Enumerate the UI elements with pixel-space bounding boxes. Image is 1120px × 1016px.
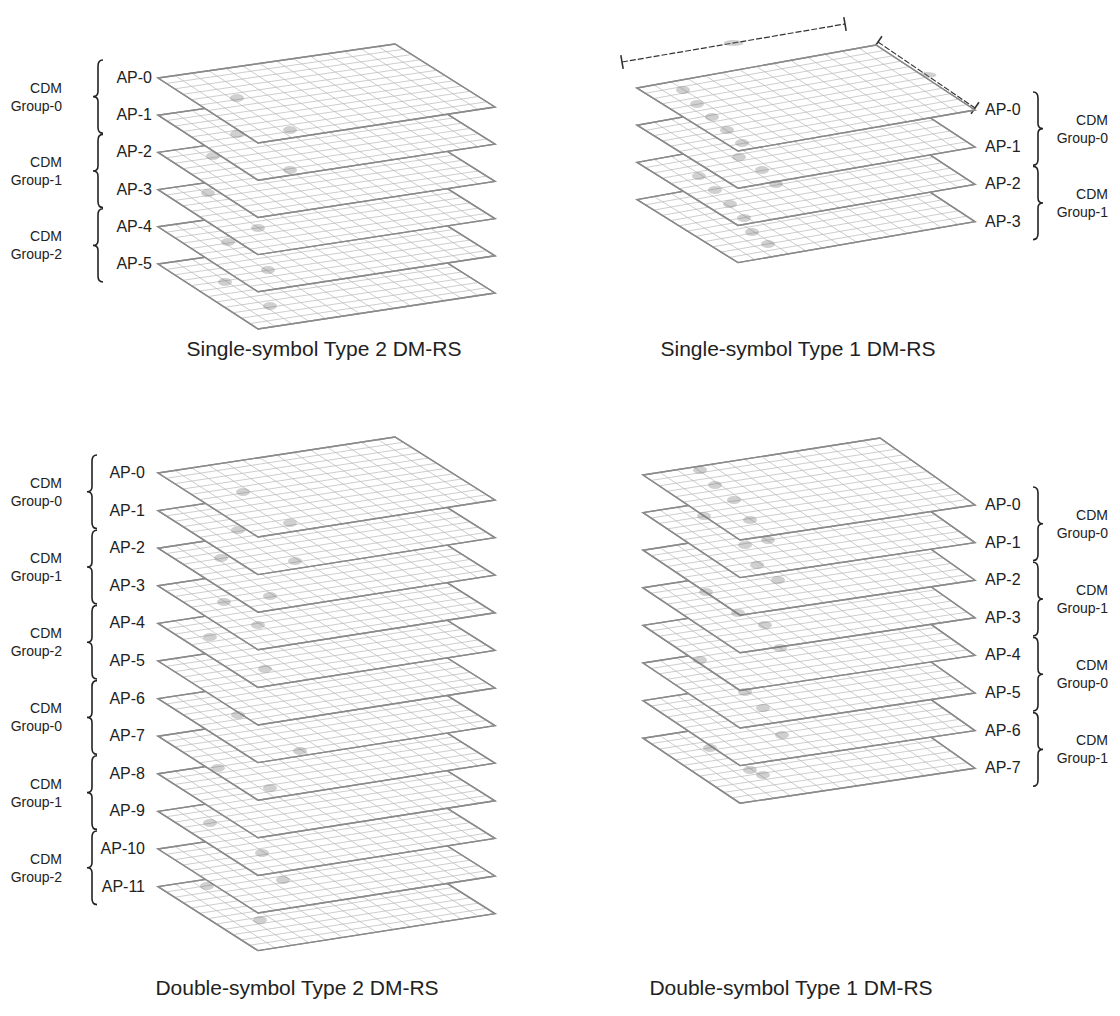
dmrs-re-marker bbox=[203, 819, 217, 827]
dmrs-re-marker bbox=[201, 189, 215, 197]
dmrs-re-marker bbox=[738, 541, 752, 549]
dmrs-re-marker bbox=[756, 771, 770, 779]
panel-caption: Double-symbol Type 2 DM-RS bbox=[155, 976, 438, 999]
dmrs-re-marker bbox=[283, 166, 297, 174]
antenna-port-label: AP-4 bbox=[109, 614, 145, 631]
antenna-port-label: AP-2 bbox=[985, 571, 1021, 588]
curly-brace-icon bbox=[1033, 637, 1043, 711]
cdm-group: CDMGroup-2 bbox=[11, 209, 103, 282]
antenna-port-labels: AP-0AP-1AP-2AP-3AP-4AP-5 bbox=[116, 69, 152, 272]
antenna-port-label: AP-0 bbox=[116, 69, 152, 86]
antenna-port-label: AP-1 bbox=[985, 138, 1021, 155]
curly-brace-icon bbox=[1033, 166, 1043, 239]
cdm-group-label-line2: Group-0 bbox=[1057, 525, 1109, 541]
cdm-group-label-line1: CDM bbox=[30, 228, 62, 244]
cdm-group: CDMGroup-1 bbox=[11, 756, 97, 830]
cdm-group-label-line2: Group-0 bbox=[11, 493, 63, 509]
curly-brace-icon bbox=[87, 455, 97, 529]
panel-single-type1: AP-0AP-1AP-2AP-3 CDMGroup-0CDMGroup-1 Si… bbox=[621, 17, 1108, 360]
cdm-group: CDMGroup-0 bbox=[11, 681, 97, 755]
cdm-group-label-line2: Group-0 bbox=[1057, 130, 1109, 146]
curly-brace-icon bbox=[1033, 562, 1043, 636]
curly-brace-icon bbox=[87, 756, 97, 830]
cdm-group: CDMGroup-1 bbox=[11, 134, 103, 207]
dmrs-re-marker bbox=[293, 747, 307, 755]
antenna-port-label: AP-2 bbox=[116, 143, 152, 160]
dmrs-re-marker bbox=[217, 598, 231, 606]
cdm-group-label-line1: CDM bbox=[30, 625, 62, 641]
dmrs-re-marker bbox=[214, 554, 228, 562]
cdm-group: CDMGroup-2 bbox=[11, 605, 97, 679]
dmrs-re-marker bbox=[750, 561, 764, 569]
cdm-group-label-line1: CDM bbox=[1076, 582, 1108, 598]
panel-double-type1: AP-0AP-1AP-2AP-3AP-4AP-5AP-6AP-7 CDMGrou… bbox=[643, 438, 1108, 999]
dmrs-re-marker bbox=[283, 519, 297, 527]
cdm-group-label-line1: CDM bbox=[1076, 657, 1108, 673]
cdm-group-label-line2: Group-2 bbox=[11, 643, 63, 659]
panel-double-type2: AP-0AP-1AP-2AP-3AP-4AP-5AP-6AP-7AP-8AP-9… bbox=[11, 437, 495, 999]
curly-brace-icon bbox=[87, 831, 97, 905]
resource-grid-stack bbox=[637, 45, 975, 263]
antenna-port-label: AP-3 bbox=[109, 577, 145, 594]
antenna-port-label: AP-1 bbox=[116, 106, 152, 123]
antenna-port-label: AP-3 bbox=[985, 609, 1021, 626]
cdm-group-label-line2: Group-1 bbox=[1057, 204, 1109, 220]
dmrs-re-marker bbox=[218, 278, 232, 286]
antenna-port-label: AP-4 bbox=[985, 646, 1021, 663]
cdm-group: CDMGroup-0 bbox=[11, 60, 103, 133]
cdm-group-braces: CDMGroup-0CDMGroup-1CDMGroup-0CDMGroup-1 bbox=[1033, 487, 1108, 786]
dmrs-re-marker bbox=[230, 94, 244, 102]
antenna-port-label: AP-9 bbox=[109, 802, 145, 819]
cdm-group: CDMGroup-1 bbox=[1033, 713, 1108, 787]
antenna-port-label: AP-6 bbox=[109, 690, 145, 707]
dmrs-re-marker bbox=[756, 704, 770, 712]
dmrs-re-marker bbox=[720, 126, 734, 134]
cdm-group-braces: CDMGroup-0CDMGroup-1CDMGroup-2CDMGroup-0… bbox=[11, 455, 97, 905]
cdm-group: CDMGroup-0 bbox=[1033, 92, 1108, 165]
curly-brace-icon bbox=[1033, 487, 1043, 561]
dmrs-re-marker bbox=[743, 516, 757, 524]
dmrs-re-marker bbox=[676, 86, 690, 94]
dmrs-re-marker bbox=[211, 764, 225, 772]
panel-caption: Single-symbol Type 1 DM-RS bbox=[660, 337, 935, 360]
curly-brace-icon bbox=[87, 605, 97, 679]
dmrs-re-marker bbox=[775, 731, 789, 739]
cdm-group-label-line2: Group-0 bbox=[1057, 675, 1109, 691]
antenna-port-labels: AP-0AP-1AP-2AP-3 bbox=[985, 101, 1021, 230]
dmrs-re-marker bbox=[731, 609, 745, 617]
curly-brace-icon bbox=[93, 209, 103, 282]
cdm-group-label-line1: CDM bbox=[30, 154, 62, 170]
dmrs-re-marker bbox=[236, 488, 250, 496]
cdm-group-label-line1: CDM bbox=[1076, 507, 1108, 523]
antenna-port-label: AP-6 bbox=[985, 722, 1021, 739]
cdm-group: CDMGroup-0 bbox=[1033, 487, 1108, 561]
panel-caption: Single-symbol Type 2 DM-RS bbox=[186, 337, 461, 360]
dmrs-re-marker bbox=[732, 153, 746, 161]
curly-brace-icon bbox=[93, 134, 103, 207]
dmrs-re-marker bbox=[743, 766, 757, 774]
dmrs-re-marker bbox=[276, 876, 290, 884]
dmrs-re-marker bbox=[206, 152, 220, 160]
resource-grid-stack bbox=[643, 438, 975, 803]
dmrs-re-marker bbox=[708, 186, 722, 194]
panel-caption: Double-symbol Type 1 DM-RS bbox=[649, 976, 932, 999]
dmrs-re-marker bbox=[231, 711, 245, 719]
antenna-port-label: AP-5 bbox=[985, 684, 1021, 701]
cdm-group-label-line1: CDM bbox=[1076, 186, 1108, 202]
resource-grid-stack bbox=[158, 44, 495, 329]
cdm-group-label-line2: Group-1 bbox=[1057, 600, 1109, 616]
dmrs-re-marker bbox=[693, 466, 707, 474]
curly-brace-icon bbox=[1033, 713, 1043, 787]
dmrs-re-marker bbox=[703, 744, 717, 752]
dmrs-re-marker bbox=[258, 665, 272, 673]
dmrs-re-marker bbox=[705, 113, 719, 121]
curly-brace-icon bbox=[93, 60, 103, 133]
antenna-port-label: AP-7 bbox=[109, 727, 145, 744]
antenna-port-label: AP-2 bbox=[985, 175, 1021, 192]
cdm-group: CDMGroup-1 bbox=[1033, 166, 1108, 239]
cdm-group: CDMGroup-0 bbox=[1033, 637, 1108, 711]
dmrs-re-marker bbox=[697, 512, 711, 520]
dmrs-re-marker bbox=[263, 784, 277, 792]
dmrs-antenna-port-diagram: AP-0AP-1AP-2AP-3AP-4AP-5 CDMGroup-0CDMGr… bbox=[0, 0, 1120, 1016]
antenna-port-label: AP-2 bbox=[109, 539, 145, 556]
